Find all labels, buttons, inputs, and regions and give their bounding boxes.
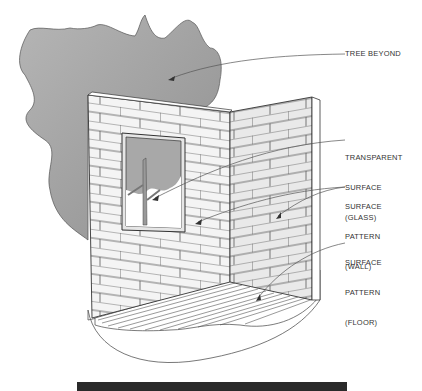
footer-bar [77,382,347,391]
label-line: TRANSPARENT [345,153,402,163]
label-surface-pattern-floor: SURFACE PATTERN (FLOOR) [345,238,382,338]
label-tree-beyond: TREE BEYOND [345,49,401,59]
label-line: PATTERN [345,288,382,298]
label-line: SURFACE [345,202,382,212]
label-line: (FLOOR) [345,318,382,328]
label-line: SURFACE [345,258,382,268]
window [122,133,185,232]
